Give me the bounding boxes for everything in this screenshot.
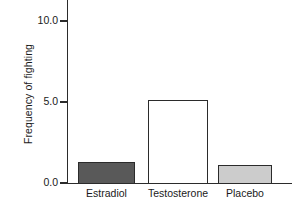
bar-chart: Frequency of fighting 0.05.010.0 Estradi…	[0, 0, 299, 208]
bar-estradiol	[78, 162, 135, 184]
bars-layer	[0, 0, 299, 184]
bar-testosterone	[148, 100, 208, 184]
x-axis-label-placebo: Placebo	[185, 187, 299, 199]
bar-placebo	[218, 165, 272, 184]
